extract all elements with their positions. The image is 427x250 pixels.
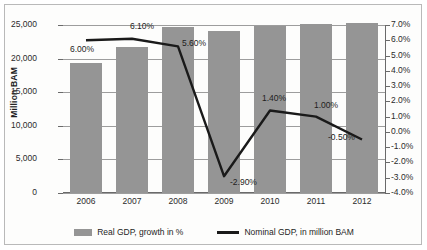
data-label-2007: 6.10% <box>130 21 154 31</box>
data-label-2011: 1.00% <box>314 100 338 110</box>
y-tick-mark-right <box>385 25 390 26</box>
x-tick-label-2012: 2012 <box>339 196 385 206</box>
y-tick-mark-right <box>385 71 390 72</box>
y-tick-label-right: -4.0% <box>391 188 427 197</box>
x-tick-label-2011: 2011 <box>293 196 339 206</box>
data-label-2009: -2.90% <box>230 177 257 187</box>
y-tick-label-left: 10,000 <box>0 121 37 130</box>
y-tick-mark-right <box>385 117 390 118</box>
right-axis-spine <box>385 25 386 194</box>
y-tick-mark-right <box>385 162 390 163</box>
y-tick-mark-right <box>385 101 390 102</box>
y-tick-mark-right <box>385 147 390 148</box>
y-tick-mark-left <box>58 159 63 160</box>
y-tick-label-right: -1.0% <box>391 142 427 151</box>
x-tick-label-2007: 2007 <box>109 196 155 206</box>
y-tick-label-left: 0 <box>0 188 37 197</box>
y-tick-label-left: 5,000 <box>0 154 37 163</box>
y-tick-mark-right <box>385 132 390 133</box>
y-tick-mark-left <box>58 59 63 60</box>
y-tick-mark-right <box>385 193 390 194</box>
data-label-2008: 5.60% <box>182 38 206 48</box>
y-tick-label-right: -2.0% <box>391 157 427 166</box>
y-tick-mark-left <box>58 92 63 93</box>
legend-label: Real GDP, growth in % <box>97 227 183 237</box>
y-tick-label-right: 7.0% <box>391 20 427 29</box>
x-tick-label-2008: 2008 <box>155 196 201 206</box>
legend-item-nominal-gdp[interactable]: Nominal GDP, in million BAM <box>217 227 353 237</box>
y-tick-label-left: 20,000 <box>0 54 37 63</box>
x-tick-label-2010: 2010 <box>247 196 293 206</box>
y-tick-mark-right <box>385 56 390 57</box>
x-tick-label-2009: 2009 <box>201 196 247 206</box>
x-tick-label-2006: 2006 <box>63 196 109 206</box>
y-tick-label-right: 2.0% <box>391 96 427 105</box>
legend-label: Nominal GDP, in million BAM <box>244 227 353 237</box>
y-tick-mark-right <box>385 40 390 41</box>
legend-item-real-gdp[interactable]: Real GDP, growth in % <box>74 227 183 237</box>
y-tick-mark-right <box>385 86 390 87</box>
y-tick-label-right: 6.0% <box>391 35 427 44</box>
chart-container: Million BAM 6.00%6.10%5.60%-2.90%1.40%1.… <box>4 4 422 245</box>
bar-swatch-icon <box>74 229 92 236</box>
data-label-2012: -0.50% <box>328 132 355 142</box>
y-tick-label-right: 5.0% <box>391 51 427 60</box>
y-tick-label-right: 4.0% <box>391 66 427 75</box>
y-tick-label-left: 25,000 <box>0 20 37 29</box>
y-tick-label-left: 15,000 <box>0 87 37 96</box>
y-tick-label-right: -3.0% <box>391 173 427 182</box>
y-tick-mark-left <box>58 25 63 26</box>
data-label-2010: 1.40% <box>262 93 286 103</box>
y-tick-mark-left <box>58 193 63 194</box>
data-label-2006: 6.00% <box>70 44 94 54</box>
chart-legend: Real GDP, growth in %Nominal GDP, in mil… <box>5 220 423 244</box>
y-tick-label-right: 3.0% <box>391 81 427 90</box>
gridline <box>63 193 385 194</box>
line-swatch-icon <box>217 231 239 234</box>
y-tick-mark-left <box>58 126 63 127</box>
y-tick-mark-right <box>385 178 390 179</box>
y-tick-label-right: 1.0% <box>391 112 427 121</box>
line-series-layer: 6.00%6.10%5.60%-2.90%1.40%1.00%-0.50% <box>63 25 385 193</box>
y-tick-label-right: 0.0% <box>391 127 427 136</box>
